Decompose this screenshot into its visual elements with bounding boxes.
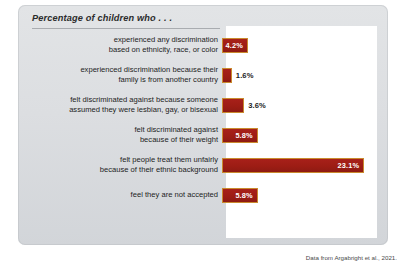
bar-category-label-line2: based on ethnicity, race, or color — [18, 45, 218, 55]
bar[interactable]: 5.8% — [222, 128, 258, 143]
bar-row: felt people treat them unfairlybecause o… — [18, 150, 388, 180]
bar-category-label: feel they are not accepted — [18, 190, 222, 200]
bar-track: 3.6% — [222, 90, 388, 120]
bar-category-label-line1: felt people treat them unfairly — [18, 155, 218, 165]
bar-row: felt discriminated againstbecause of the… — [18, 120, 388, 150]
bar-row: experienced any discriminationbased on e… — [18, 30, 388, 60]
bar-track: 5.8% — [222, 180, 388, 210]
bar-category-label-line1: experienced any discrimination — [18, 35, 218, 45]
figure-panel: Percentage of children who . . . experie… — [18, 5, 388, 245]
bar[interactable] — [222, 68, 232, 83]
bar[interactable] — [222, 98, 244, 113]
bar-value-label: 1.6% — [236, 71, 254, 80]
bar-track: 23.1% — [222, 150, 388, 180]
bar-track: 4.2% — [222, 30, 388, 60]
bar-category-label-line1: felt discriminated against — [18, 125, 218, 135]
bar-category-label-line1: experienced discrimination because their — [18, 65, 218, 75]
bar-track: 1.6% — [222, 60, 388, 90]
bar-category-label: felt discriminated against because someo… — [18, 95, 222, 114]
bar-row: experienced discrimination because their… — [18, 60, 388, 90]
bar-row: feel they are not accepted5.8% — [18, 180, 388, 210]
bar-category-label-line2: because of their weight — [18, 135, 218, 145]
bar-category-label: experienced any discriminationbased on e… — [18, 35, 222, 54]
bar-value-label: 3.6% — [248, 101, 266, 110]
chart-title: Percentage of children who . . . — [32, 13, 172, 23]
bar-value-label: 4.2% — [226, 41, 247, 50]
bar-category-label-line1: feel they are not accepted — [18, 190, 218, 200]
bar[interactable]: 4.2% — [222, 38, 248, 53]
bar-category-label-line1: felt discriminated against because someo… — [18, 95, 218, 105]
bar-category-label-line2: assumed they were lesbian, gay, or bisex… — [18, 105, 218, 115]
bar-value-label: 23.1% — [338, 161, 363, 170]
bar-value-label: 5.8% — [235, 131, 256, 140]
bar-category-label-line2: because of their ethnic background — [18, 165, 218, 175]
bar[interactable]: 5.8% — [222, 188, 258, 203]
bar-category-label-line2: family is from another country — [18, 75, 218, 85]
bar-value-label: 5.8% — [235, 191, 256, 200]
bar-track: 5.8% — [222, 120, 388, 150]
bar-chart-rows: experienced any discriminationbased on e… — [18, 26, 388, 238]
bar-category-label: felt people treat them unfairlybecause o… — [18, 155, 222, 174]
bar-category-label: experienced discrimination because their… — [18, 65, 222, 84]
source-note: Data from Argabright et al., 2021. — [306, 254, 397, 261]
bar[interactable]: 23.1% — [222, 158, 364, 173]
bar-row: felt discriminated against because someo… — [18, 90, 388, 120]
bar-category-label: felt discriminated againstbecause of the… — [18, 125, 222, 144]
